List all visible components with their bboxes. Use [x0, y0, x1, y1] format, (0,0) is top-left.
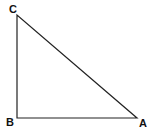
vertex-label-b: B [6, 116, 14, 128]
vertex-label-c: C [9, 3, 17, 15]
vertex-label-a: A [139, 117, 147, 129]
triangle-diagram: C B A [0, 0, 154, 138]
triangle-abc [17, 15, 137, 118]
